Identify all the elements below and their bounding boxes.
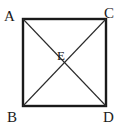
- vertex-label-a: A: [4, 9, 15, 24]
- geometry-figure: A C B D E: [0, 0, 122, 130]
- vertex-label-c: C: [104, 6, 114, 21]
- vertex-label-b: B: [7, 110, 17, 125]
- center-point-label-e: E: [57, 49, 65, 62]
- vertex-label-d: D: [103, 110, 114, 125]
